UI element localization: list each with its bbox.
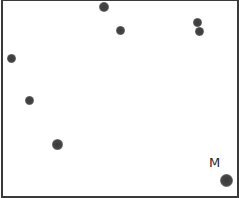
sample-spot [116, 26, 125, 35]
sample-spot [7, 54, 16, 63]
marker-label: M [209, 156, 220, 169]
sample-spot [193, 18, 202, 27]
sample-spot [99, 2, 109, 12]
sample-spot [195, 27, 204, 36]
marker-spot [220, 174, 233, 187]
sample-spot [25, 96, 34, 105]
sample-spot [52, 139, 63, 150]
